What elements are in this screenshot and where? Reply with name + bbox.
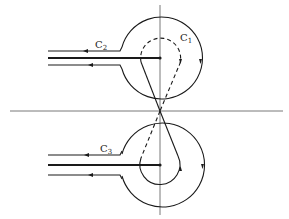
top-channel-upper-arrow-icon <box>83 49 88 53</box>
top-inner-dashed-circle <box>141 38 181 68</box>
bottom-center-point <box>158 163 161 166</box>
label-c3: C3 <box>100 144 112 156</box>
top-channel-lower <box>48 65 122 69</box>
bottom-keyhole-contour <box>48 111 205 207</box>
top-tangent-solid <box>141 62 160 111</box>
bottom-channel-lower <box>48 175 122 179</box>
bottom-outer-arrow-icon <box>201 164 204 169</box>
bottom-channel-upper-arrow-icon <box>84 153 89 157</box>
keyhole-contours-figure <box>0 0 289 219</box>
bottom-tangent-dashed <box>141 111 160 158</box>
diagram-canvas: C2 C1 C3 <box>0 0 289 219</box>
top-channel-lower-arrow-icon <box>88 63 93 67</box>
top-tangent-dashed <box>160 68 178 111</box>
bottom-tangent-solid <box>160 111 178 156</box>
label-c2: C2 <box>95 40 107 52</box>
label-c1: C1 <box>180 33 192 45</box>
top-outer-arrow-icon <box>199 59 202 64</box>
bottom-channel-lower-arrow-icon <box>88 173 93 177</box>
top-center-point <box>158 56 161 59</box>
